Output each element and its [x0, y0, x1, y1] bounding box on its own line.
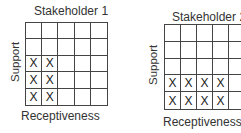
- grid-cell: [229, 75, 241, 92]
- grid-cell: [229, 59, 241, 76]
- grid-cell: [58, 72, 74, 88]
- grid-cell: [165, 42, 181, 59]
- grid-cell: [165, 59, 181, 76]
- grid-cell: [91, 39, 107, 55]
- marked-cell: X: [181, 92, 197, 109]
- grid-cell: [42, 39, 58, 55]
- grid-cell: [213, 42, 229, 59]
- marked-cell: X: [42, 89, 58, 105]
- grid-cell: [197, 59, 213, 76]
- stakeholder-2-title: Stakeholder 2: [172, 10, 241, 24]
- marked-cell: X: [26, 89, 42, 105]
- grid-cell: [75, 89, 91, 105]
- marked-cell: X: [42, 72, 58, 88]
- marked-cell: X: [197, 75, 213, 92]
- grid-cell: [42, 23, 58, 39]
- stakeholder-1-receptiveness-label: Receptiveness: [21, 109, 100, 123]
- marked-cell: X: [165, 75, 181, 92]
- grid-cell: [181, 25, 197, 42]
- marked-cell: X: [213, 75, 229, 92]
- marked-cell: X: [197, 92, 213, 109]
- grid-cell: [58, 39, 74, 55]
- grid-cell: [58, 89, 74, 105]
- marked-cell: X: [26, 72, 42, 88]
- grid-cell: [58, 56, 74, 72]
- grid-cell: [75, 56, 91, 72]
- grid-cell: [229, 92, 241, 109]
- grid-cell: [213, 25, 229, 42]
- stakeholder-2-receptiveness-label: Receptiveness: [163, 115, 241, 129]
- grid-cell: [58, 23, 74, 39]
- grid-cell: [197, 25, 213, 42]
- marked-cell: X: [26, 56, 42, 72]
- stakeholder-1-grid: XXXXXX: [25, 22, 108, 106]
- grid-cell: [91, 72, 107, 88]
- grid-cell: [91, 56, 107, 72]
- grid-cell: [75, 72, 91, 88]
- grid-cell: [229, 25, 241, 42]
- stakeholder-1-title: Stakeholder 1: [34, 4, 108, 18]
- grid-cell: [213, 59, 229, 76]
- grid-cell: [91, 23, 107, 39]
- grid-cell: [165, 25, 181, 42]
- stakeholder-2-grid: XXXXXXXX: [164, 24, 241, 110]
- grid-cell: [181, 59, 197, 76]
- marked-cell: X: [42, 56, 58, 72]
- grid-cell: [91, 89, 107, 105]
- marked-cell: X: [213, 92, 229, 109]
- grid-cell: [181, 42, 197, 59]
- marked-cell: X: [165, 92, 181, 109]
- stakeholder-1-support-label: Support: [9, 42, 21, 82]
- grid-cell: [26, 23, 42, 39]
- grid-cell: [75, 39, 91, 55]
- marked-cell: X: [181, 75, 197, 92]
- grid-cell: [229, 42, 241, 59]
- grid-cell: [197, 42, 213, 59]
- grid-cell: [75, 23, 91, 39]
- stakeholder-2-support-label: Support: [147, 45, 159, 85]
- grid-cell: [26, 39, 42, 55]
